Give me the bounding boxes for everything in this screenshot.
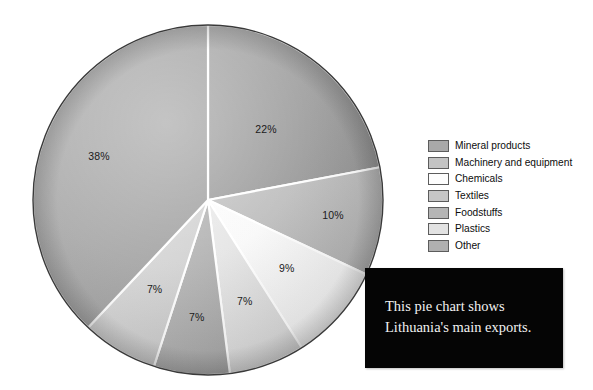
pie-slice-label: 38% <box>88 150 109 162</box>
pie-slice-label: 9% <box>279 262 294 274</box>
legend-item-label: Chemicals <box>455 174 503 184</box>
legend-item[interactable]: Machinery and equipment <box>428 155 588 172</box>
legend-item[interactable]: Plastics <box>428 221 588 238</box>
legend-swatch <box>428 157 449 169</box>
legend-item[interactable]: Chemicals <box>428 171 588 188</box>
legend-item-label: Textiles <box>455 191 489 201</box>
legend-item[interactable]: Foodstuffs <box>428 204 588 221</box>
pie-chart-figure: 22%10%9%7%7%7%38% <box>0 0 420 390</box>
legend-swatch <box>428 240 449 252</box>
pie-chart-svg: 22%10%9%7%7%7%38% <box>0 0 420 390</box>
chart-legend: Mineral productsMachinery and equipmentC… <box>428 138 588 254</box>
pie-slice-label: 7% <box>237 295 252 307</box>
pie-slice-label: 7% <box>189 311 204 323</box>
pie-slice-label: 10% <box>322 209 343 221</box>
legend-swatch <box>428 223 449 235</box>
legend-item-label: Plastics <box>455 224 490 234</box>
legend-item-label: Other <box>455 241 480 251</box>
caption-box: This pie chart shows Lithuania's main ex… <box>365 268 563 368</box>
pie-slice-label: 22% <box>255 123 276 135</box>
pie-slices <box>33 25 383 375</box>
legend-item[interactable]: Other <box>428 238 588 255</box>
legend-item-label: Machinery and equipment <box>455 158 572 168</box>
legend-item-label: Foodstuffs <box>455 208 502 218</box>
caption-text: This pie chart shows Lithuania's main ex… <box>385 296 531 338</box>
legend-swatch <box>428 140 449 152</box>
legend-item[interactable]: Textiles <box>428 188 588 205</box>
pie-slice-label: 7% <box>147 283 162 295</box>
legend-item-label: Mineral products <box>455 141 530 151</box>
legend-swatch <box>428 173 449 185</box>
legend-item[interactable]: Mineral products <box>428 138 588 155</box>
legend-swatch <box>428 207 449 219</box>
legend-swatch <box>428 190 449 202</box>
